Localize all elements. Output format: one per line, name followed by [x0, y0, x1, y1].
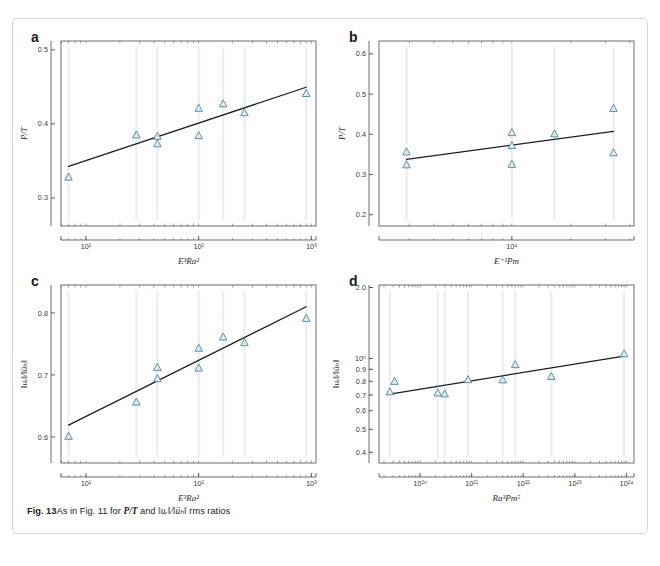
- y-axis: [51, 285, 55, 463]
- y-axis: [51, 41, 55, 226]
- tick-label: 0.7: [38, 371, 48, 380]
- plot-frame: [61, 285, 316, 463]
- tick-label: 10²: [193, 479, 204, 488]
- caption-label: Fig. 13: [27, 506, 56, 516]
- x-axis-label: Ra³Pm⁵: [492, 493, 521, 503]
- tick-label: 10¹: [81, 479, 92, 488]
- tick-label: 0.6: [356, 49, 366, 58]
- figure-caption: Fig. 13As in Fig. 11 for P/T and ‖uᵣ‖/‖ū…: [27, 505, 637, 517]
- panel-d: d 10²⁰10²¹10²²10²³10²⁴0.40.50.60.70.80.9…: [331, 267, 648, 512]
- y-axis-label: P/T: [337, 126, 347, 141]
- tick-label: 2.0: [356, 283, 366, 292]
- tick-label: 10²²: [517, 479, 531, 488]
- panel-c-plot: 10¹10²10³0.60.70.8E³Ra²‖uᵣ‖/‖ūₕ‖: [13, 267, 331, 512]
- tick-label: 0.2: [356, 210, 366, 219]
- tick-label: 0.6: [356, 406, 366, 415]
- y-axis: [369, 41, 373, 226]
- panel-a: a 10¹10²10³0.30.40.5E³Ra²P/T: [13, 19, 331, 277]
- tick-label: 0.9: [356, 365, 366, 374]
- x-axis-label: E³Ra²: [177, 256, 199, 266]
- tick-label: 10²: [193, 242, 204, 251]
- tick-label: 0.3: [356, 170, 366, 179]
- tick-label: 0.3: [38, 193, 48, 202]
- caption-math-2: ‖uᵣ‖/‖ūₕ‖: [158, 506, 187, 516]
- figure-card: a 10¹10²10³0.30.40.5E³Ra²P/T b 10⁴0.20.3…: [12, 18, 648, 534]
- plot-frame: [379, 285, 634, 463]
- y-axis: [369, 285, 373, 463]
- tick-label: 10²⁰: [413, 479, 427, 488]
- caption-text-1: As in Fig. 11 for: [56, 506, 123, 516]
- tick-label: 10¹: [81, 242, 92, 251]
- tick-label: 0.4: [38, 119, 48, 128]
- panel-c: c 10¹10²10³0.60.70.8E³Ra²‖uᵣ‖/‖ūₕ‖: [13, 267, 331, 512]
- x-axis-label: E⁻¹Pm: [493, 256, 520, 266]
- tick-label: 0.5: [356, 425, 366, 434]
- panel-b-plot: 10⁴0.20.30.40.50.6E⁻¹PmP/T: [331, 19, 648, 277]
- tick-label: 0.7: [356, 391, 366, 400]
- tick-label: 10⁰: [355, 354, 366, 363]
- x-axis: [379, 473, 634, 477]
- caption-math-1: P/T: [123, 506, 137, 516]
- tick-label: 0.4: [356, 448, 366, 457]
- y-axis-label: ‖uᵣ‖/‖ūₕ‖: [19, 360, 29, 388]
- x-axis: [61, 473, 316, 477]
- tick-label: 10³: [306, 479, 317, 488]
- plot-frame: [61, 41, 316, 226]
- tick-label: 0.4: [356, 130, 366, 139]
- tick-label: 0.8: [356, 377, 366, 386]
- tick-label: 0.6: [38, 433, 48, 442]
- tick-label: 0.8: [38, 309, 48, 318]
- tick-label: 10⁴: [506, 242, 517, 251]
- panel-d-plot: 10²⁰10²¹10²²10²³10²⁴0.40.50.60.70.80.910…: [331, 267, 648, 512]
- y-axis-label: P/T: [19, 126, 29, 141]
- x-axis-label: E³Ra²: [177, 493, 199, 503]
- x-axis: [379, 236, 634, 240]
- tick-label: 10²³: [568, 479, 582, 488]
- tick-label: 10²¹: [465, 479, 479, 488]
- panel-a-plot: 10¹10²10³0.30.40.5E³Ra²P/T: [13, 19, 331, 277]
- panel-b: b 10⁴0.20.30.40.50.6E⁻¹PmP/T: [331, 19, 648, 277]
- tick-label: 10²⁴: [620, 479, 634, 488]
- x-axis: [61, 236, 316, 240]
- caption-text-2: and: [137, 506, 158, 516]
- caption-text-3: rms ratios: [187, 506, 230, 516]
- tick-label: 0.5: [38, 45, 48, 54]
- tick-label: 10³: [306, 242, 317, 251]
- tick-label: 0.5: [356, 90, 366, 99]
- y-axis-label: ‖uᵣ‖/‖ūₕ‖: [331, 360, 341, 388]
